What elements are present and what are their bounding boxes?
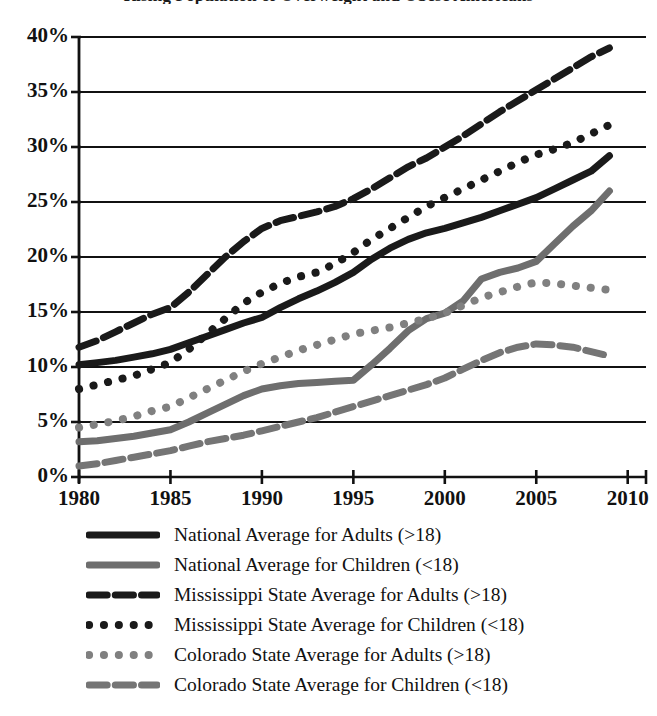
y-axis-label: 10% [3,353,69,378]
legend-item[interactable]: Mississippi State Average for Adults (>1… [86,580,646,610]
x-axis-label: 1990 [222,486,302,511]
legend-label: Colorado State Average for Adults (>18) [174,645,491,665]
series-line-1 [79,191,609,442]
x-axis-label: 2005 [496,486,576,511]
legend-label: Mississippi State Average for Children (… [174,615,524,635]
legend-swatch-icon [86,584,160,606]
legend-item[interactable]: National Average for Adults (>18) [86,520,646,550]
plot-area: 0%5%10%15%20%25%30%35%40%198019851990199… [0,0,657,510]
x-axis-label: 1995 [313,486,393,511]
x-axis-label: 2000 [405,486,485,511]
legend-label: Colorado State Average for Children (<18… [174,675,508,695]
plot-svg [0,0,657,510]
legend-item[interactable]: Mississippi State Average for Children (… [86,610,646,640]
y-axis-label: 35% [3,78,69,103]
legend-item[interactable]: National Average for Children (<18) [86,550,646,580]
x-axis-label: 1985 [130,486,210,511]
legend-swatch-icon [86,554,160,576]
series-line-5 [79,344,609,466]
legend-item[interactable]: Colorado State Average for Children (<18… [86,670,646,700]
legend-item[interactable]: Colorado State Average for Adults (>18) [86,640,646,670]
y-axis-label: 40% [3,23,69,48]
y-axis-label: 20% [3,243,69,268]
legend-swatch-icon [86,524,160,546]
legend-label: Mississippi State Average for Adults (>1… [174,585,507,605]
y-axis-label: 0% [3,463,69,488]
legend-swatch-icon [86,674,160,696]
legend-label: National Average for Adults (>18) [174,525,441,545]
x-axis-label: 2010 [588,486,657,511]
x-axis-label: 1980 [39,486,119,511]
y-axis-label: 30% [3,133,69,158]
chart-legend: National Average for Adults (>18)Nationa… [86,520,646,700]
legend-label: National Average for Children (<18) [174,555,459,575]
y-axis-label: 5% [3,408,69,433]
legend-swatch-icon [86,614,160,636]
chart-figure: Rising Population of Overweight and Obes… [0,0,657,716]
legend-swatch-icon [86,644,160,666]
y-axis-label: 25% [3,188,69,213]
y-axis-label: 15% [3,298,69,323]
